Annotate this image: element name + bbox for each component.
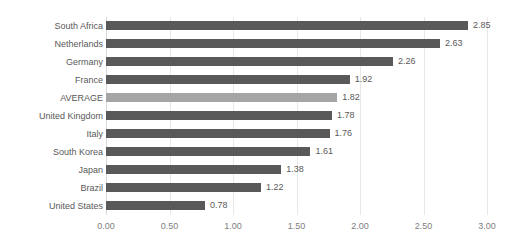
bar-value-label: 2.26 — [398, 54, 416, 69]
bar — [106, 129, 330, 138]
category-label: Italy — [0, 125, 103, 143]
bar — [106, 93, 337, 102]
x-tick-label: 2.50 — [404, 221, 444, 231]
x-tick-label: 0.50 — [150, 221, 190, 231]
bar — [106, 111, 332, 120]
plot-area: 2.852.632.261.921.821.781.761.611.381.22… — [106, 17, 487, 215]
bar-row: 1.78 — [106, 107, 487, 125]
bar-row: 1.22 — [106, 179, 487, 197]
x-tick-label: 1.00 — [213, 221, 253, 231]
x-tick-label: 0.00 — [86, 221, 126, 231]
bar-value-label: 1.76 — [335, 126, 353, 141]
bar-value-label: 1.78 — [337, 108, 355, 123]
bar-value-label: 2.85 — [473, 18, 491, 33]
x-tick-label: 3.00 — [467, 221, 507, 231]
category-label: Germany — [0, 53, 103, 71]
bar-row: 1.92 — [106, 71, 487, 89]
category-label: AVERAGE — [0, 89, 103, 107]
bar — [106, 201, 205, 210]
bar — [106, 39, 440, 48]
bar-row: 1.76 — [106, 125, 487, 143]
bar-value-label: 0.78 — [210, 198, 228, 213]
category-label: Brazil — [0, 179, 103, 197]
bar — [106, 165, 281, 174]
category-label: South Africa — [0, 17, 103, 35]
bar-value-label: 1.38 — [286, 162, 304, 177]
x-tick-label: 1.50 — [277, 221, 317, 231]
category-label: Japan — [0, 161, 103, 179]
bar — [106, 183, 261, 192]
bar-row: 0.78 — [106, 197, 487, 215]
bar-chart: South AfricaNetherlandsGermanyFranceAVER… — [0, 0, 520, 248]
bar-value-label: 1.92 — [355, 72, 373, 87]
bar-row: 1.61 — [106, 143, 487, 161]
bar-value-label: 1.82 — [342, 90, 360, 105]
category-axis-labels: South AfricaNetherlandsGermanyFranceAVER… — [0, 17, 103, 215]
category-label: France — [0, 71, 103, 89]
bar-row: 1.38 — [106, 161, 487, 179]
bar-row: 1.82 — [106, 89, 487, 107]
bar-value-label: 1.61 — [315, 144, 333, 159]
gridline — [487, 17, 488, 215]
category-label: United States — [0, 197, 103, 215]
category-label: United Kingdom — [0, 107, 103, 125]
bar-value-label: 2.63 — [445, 36, 463, 51]
bar — [106, 21, 468, 30]
bar-row: 2.85 — [106, 17, 487, 35]
bar-row: 2.63 — [106, 35, 487, 53]
bar — [106, 75, 350, 84]
bar-value-label: 1.22 — [266, 180, 284, 195]
x-tick-label: 2.00 — [340, 221, 380, 231]
bar-row: 2.26 — [106, 53, 487, 71]
bar-rows: 2.852.632.261.921.821.781.761.611.381.22… — [106, 17, 487, 215]
category-label: South Korea — [0, 143, 103, 161]
bar — [106, 57, 393, 66]
category-label: Netherlands — [0, 35, 103, 53]
bar — [106, 147, 310, 156]
